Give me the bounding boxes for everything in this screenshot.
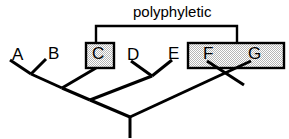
polyphyletic-bracket <box>96 26 237 42</box>
branch-de <box>90 76 152 100</box>
branch-ab <box>31 74 62 88</box>
polyphyletic-label: polyphyletic <box>133 4 211 19</box>
taxon-label-a: A <box>12 46 23 63</box>
branch-b <box>31 59 46 74</box>
taxon-label-f: F <box>203 45 213 62</box>
phylogenetic-tree-diagram: polyphyletic A B C D E F G <box>0 0 289 139</box>
taxon-label-e: E <box>168 45 179 62</box>
branch-abc <box>62 88 90 100</box>
taxon-label-d: D <box>127 46 139 63</box>
tree-graphic <box>0 0 289 139</box>
taxon-label-b: B <box>48 45 59 62</box>
tree-branches <box>10 59 251 138</box>
bracket-path <box>96 26 237 42</box>
branch-left <box>90 100 130 117</box>
branch-g <box>130 61 251 117</box>
taxon-label-g: G <box>248 45 261 62</box>
taxon-label-c: C <box>92 45 104 62</box>
branch-c <box>62 68 96 88</box>
